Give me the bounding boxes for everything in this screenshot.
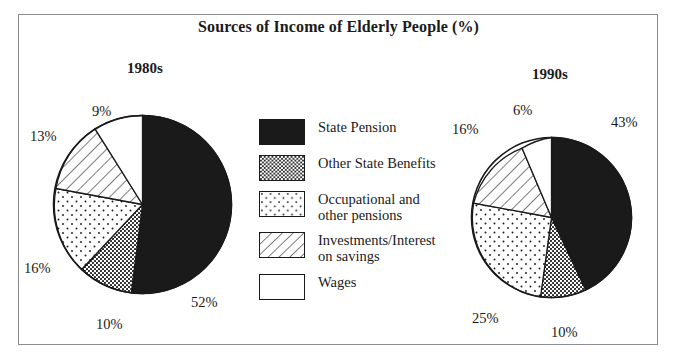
legend-label-line1: State Pension <box>318 120 397 136</box>
legend-label-line1: Other State Benefits <box>318 156 436 172</box>
legend-label-wages: Wages <box>318 273 356 291</box>
pie-chart-1990s <box>470 136 633 299</box>
pie-label-1980s-state-pension: 52% <box>191 295 218 310</box>
legend-swatch-dense-dots <box>259 155 305 181</box>
pie-label-1980s-investments-interest: 13% <box>30 129 57 144</box>
slice-occupational-pensions <box>472 203 551 297</box>
pie-label-1990s-investments-interest: 16% <box>452 122 479 137</box>
slice-state-pension <box>131 116 231 294</box>
pie-label-1990s-wages: 6% <box>513 103 532 118</box>
page-title: Sources of Income of Elderly People (%) <box>0 18 677 36</box>
legend-swatch-sparse-dots <box>259 191 305 217</box>
legend-item-state-pension: State Pension <box>259 118 459 146</box>
legend-item-occupational-pensions: Occupational and other pensions <box>259 190 459 223</box>
legend-swatch-diagonal-hatch <box>259 232 305 258</box>
legend-label-occupational-pensions: Occupational and other pensions <box>318 190 420 223</box>
legend: State Pension Other State Benefits <box>259 118 459 309</box>
legend-swatch-solid-black <box>259 119 305 145</box>
legend-label-state-pension: State Pension <box>318 118 397 136</box>
legend-label-line2: other pensions <box>318 208 420 224</box>
pie-label-1990s-state-pension: 43% <box>611 115 638 130</box>
legend-label-other-state-benefits: Other State Benefits <box>318 154 436 172</box>
pie-label-1980s-occupational-pensions: 16% <box>24 261 51 276</box>
legend-item-other-state-benefits: Other State Benefits <box>259 154 459 182</box>
pie-label-1990s-other-state-benefits: 10% <box>551 325 578 340</box>
pie-heading-1990s: 1990s <box>500 66 600 83</box>
legend-label-investments-interest: Investments/Interest on savings <box>318 231 436 264</box>
legend-label-line1: Investments/Interest <box>318 233 436 249</box>
pie-heading-1980s: 1980s <box>95 60 195 77</box>
legend-item-wages: Wages <box>259 273 459 301</box>
pie-chart-1980s <box>52 114 233 295</box>
legend-item-investments-interest: Investments/Interest on savings <box>259 231 459 264</box>
legend-label-line1: Wages <box>318 275 356 291</box>
pie-label-1980s-other-state-benefits: 10% <box>96 317 123 332</box>
pie-label-1990s-occupational-pensions: 25% <box>472 311 499 326</box>
legend-label-line2: on savings <box>318 249 436 265</box>
pie-label-1980s-wages: 9% <box>92 104 111 119</box>
legend-label-line1: Occupational and <box>318 192 420 208</box>
legend-swatch-white <box>259 274 305 300</box>
